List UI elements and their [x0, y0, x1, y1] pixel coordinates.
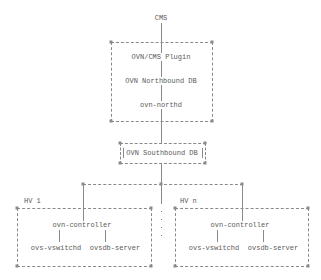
box-corner	[150, 265, 153, 268]
hvn-box	[175, 208, 309, 267]
ovn-cms-plugin-node: OVN/CMS Plugin	[131, 53, 192, 61]
northd-to-sb-connector	[161, 121, 162, 143]
box-corner	[204, 142, 207, 145]
hvn-ovn-controller-node: ovn-controller	[210, 221, 271, 229]
hv1-box	[17, 208, 152, 267]
sb-box-left-bar	[123, 148, 124, 158]
sb-to-bus-connector	[161, 163, 162, 184]
box-corner	[307, 207, 310, 210]
hv1-ovs-vswitchd-node: ovs-vswitchd	[31, 244, 81, 252]
box-corner	[119, 142, 122, 145]
hv1-ovsdb-server-node: ovsdb-server	[90, 244, 140, 252]
ellipsis-dot	[161, 227, 162, 228]
ellipsis-dot	[161, 235, 162, 236]
hvn-controller-to-ovsdb	[263, 230, 264, 242]
box-corner	[307, 265, 310, 268]
center-drop	[161, 184, 162, 204]
box-corner	[211, 41, 214, 44]
ellipsis-dot	[161, 219, 162, 220]
hvn-ovsdb-server-node: ovsdb-server	[248, 244, 298, 252]
hv1-controller-to-ovsdb	[105, 230, 106, 242]
sb-box-right-bar	[202, 148, 203, 158]
hvn-label: HV n	[180, 197, 197, 205]
hvn-controller-to-vswitchd	[217, 230, 218, 242]
distribution-bus	[83, 184, 243, 185]
ellipsis-dot	[161, 211, 162, 212]
cms-label: CMS	[155, 14, 168, 22]
box-corner	[150, 207, 153, 210]
box-corner	[16, 265, 19, 268]
hv1-label: HV 1	[24, 197, 41, 205]
ovn-northd-node: ovn-northd	[139, 101, 183, 109]
box-corner	[119, 162, 122, 165]
hv1-ovn-controller-node: ovn-controller	[52, 221, 113, 229]
box-corner	[211, 120, 214, 123]
hv1-controller-to-vswitchd	[59, 230, 60, 242]
box-corner	[204, 162, 207, 165]
ovn-southbound-db-node: OVN Southbound DB	[126, 149, 197, 157]
ovn-northbound-db-node: OVN Northbound DB	[124, 77, 197, 85]
hvn-ovs-vswitchd-node: ovs-vswitchd	[189, 244, 239, 252]
box-corner	[174, 207, 177, 210]
box-corner	[174, 265, 177, 268]
box-corner	[110, 120, 113, 123]
box-corner	[110, 41, 113, 44]
box-corner	[16, 207, 19, 210]
